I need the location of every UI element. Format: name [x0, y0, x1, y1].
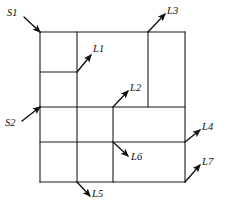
leader-arrow-l2: [113, 91, 128, 107]
leader-arrow-l4: [185, 130, 200, 142]
leader-arrows: [22, 14, 200, 196]
figure-canvas: S1S2L1L2L3L4L5L6L7: [0, 0, 227, 215]
label-l4: L4: [202, 122, 213, 133]
label-l7: L7: [202, 157, 213, 168]
diagram-svg: [0, 0, 227, 215]
label-s2: S2: [5, 118, 16, 129]
leader-arrow-l7: [185, 165, 200, 182]
label-l3: L3: [167, 6, 178, 17]
label-s1: S1: [7, 8, 18, 19]
leader-arrow-s2: [22, 107, 40, 121]
leader-arrow-l5: [77, 182, 90, 196]
label-l2: L2: [130, 83, 141, 94]
label-l1: L1: [93, 44, 104, 55]
leader-arrow-l6: [113, 142, 128, 156]
leader-arrow-l1: [77, 55, 91, 72]
label-l6: L6: [131, 152, 142, 163]
label-l5: L5: [92, 189, 103, 200]
leader-arrow-s1: [24, 17, 40, 32]
leader-arrow-l3: [148, 14, 165, 32]
